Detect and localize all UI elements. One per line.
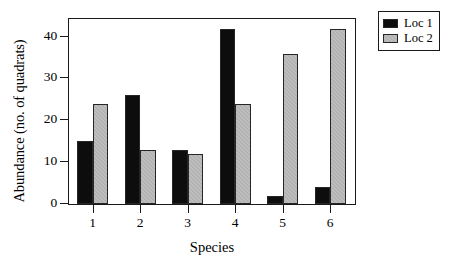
x-axis-title: Species [68, 240, 356, 255]
legend-item-label: Loc 1 [404, 17, 433, 30]
y-axis-tick-label: 20 [17, 113, 57, 127]
x-axis-tick [235, 204, 236, 213]
bar [93, 104, 109, 204]
x-axis-tick [330, 204, 331, 213]
y-axis-tick [60, 203, 69, 204]
x-axis-tick-label: 6 [310, 216, 350, 230]
x-axis-tick-label: 4 [215, 216, 255, 230]
bar [77, 141, 93, 204]
y-axis-tick [60, 77, 69, 78]
bar [220, 29, 236, 204]
legend-item[interactable]: Loc 2 [383, 31, 433, 46]
x-axis-tick [283, 204, 284, 213]
y-axis-tick [60, 36, 69, 37]
plot-frame: 010203040123456 [68, 18, 356, 205]
bar [125, 95, 141, 204]
bar [267, 196, 283, 204]
legend-swatch-icon [383, 19, 398, 28]
y-axis-tick-label: 30 [17, 71, 57, 85]
x-axis-tick [140, 204, 141, 213]
x-axis-tick-label: 3 [168, 216, 208, 230]
legend-swatch-icon [383, 34, 398, 43]
bar [140, 150, 156, 204]
x-axis-tick-label: 2 [120, 216, 160, 230]
legend-item-label: Loc 2 [404, 32, 433, 45]
x-axis-tick-label: 5 [263, 216, 303, 230]
x-axis-tick-label: 1 [73, 216, 113, 230]
y-axis-tick-label: 40 [17, 29, 57, 43]
bar [283, 54, 299, 204]
bar [188, 154, 204, 204]
x-axis-tick [188, 204, 189, 213]
y-axis-tick [60, 119, 69, 120]
bar [172, 150, 188, 204]
bar-chart-figure: Abundance (no. of quadrats) 010203040123… [0, 0, 461, 271]
bar [235, 104, 251, 204]
legend-item[interactable]: Loc 1 [383, 16, 433, 31]
chart-legend: Loc 1Loc 2 [378, 11, 440, 51]
bar [330, 29, 346, 204]
y-axis-tick-label: 0 [17, 196, 57, 210]
y-axis-tick-label: 10 [17, 154, 57, 168]
x-axis-tick [93, 204, 94, 213]
plot-area: 010203040123456 [69, 19, 355, 204]
bar [315, 187, 331, 204]
y-axis-tick [60, 161, 69, 162]
